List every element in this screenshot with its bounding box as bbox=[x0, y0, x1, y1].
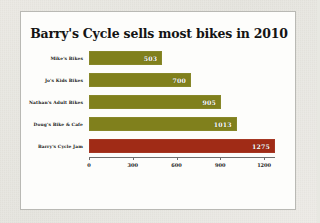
bar-row: Nathan's Adult Bikes 905 bbox=[89, 95, 275, 109]
bar[interactable]: 700 bbox=[89, 73, 191, 87]
bar[interactable]: 1013 bbox=[89, 117, 237, 131]
bar-value-label: 700 bbox=[173, 77, 187, 84]
bar-value-label: 503 bbox=[144, 55, 158, 62]
bar-value-label: 905 bbox=[202, 99, 216, 106]
x-axis-tick-label: 900 bbox=[215, 162, 225, 168]
x-axis-tick-label: 1200 bbox=[257, 162, 271, 168]
bar[interactable]: 503 bbox=[89, 51, 162, 65]
bar-row: Mike's Bikes 503 bbox=[89, 51, 275, 65]
bar-row: Doug's Bike & Cafe 1013 bbox=[89, 117, 275, 131]
category-label: Jo's Kids Bikes bbox=[45, 78, 83, 83]
plot-area: Mike's Bikes 503 Jo's Kids Bikes 700 Nat… bbox=[89, 51, 275, 157]
chart-panel: Barry's Cycle sells most bikes in 2010 M… bbox=[20, 11, 296, 210]
bar-value-label: 1013 bbox=[214, 121, 232, 128]
x-axis-tick bbox=[264, 157, 265, 160]
bar-row: Barry's Cycle Jam 1275 bbox=[89, 139, 275, 153]
x-axis-tick bbox=[177, 157, 178, 160]
x-axis-tick-label: 300 bbox=[128, 162, 138, 168]
x-axis-tick-label: 0 bbox=[87, 162, 90, 168]
x-axis-tick bbox=[89, 157, 90, 160]
bar-row: Jo's Kids Bikes 700 bbox=[89, 73, 275, 87]
x-axis-tick bbox=[133, 157, 134, 160]
bar[interactable]: 905 bbox=[89, 95, 221, 109]
category-label: Doug's Bike & Cafe bbox=[34, 122, 83, 127]
category-label: Mike's Bikes bbox=[50, 56, 83, 61]
bar-highlighted[interactable]: 1275 bbox=[89, 139, 275, 153]
category-label: Nathan's Adult Bikes bbox=[29, 100, 83, 105]
x-axis-line bbox=[89, 157, 275, 158]
x-axis-tick-label: 600 bbox=[171, 162, 181, 168]
category-label: Barry's Cycle Jam bbox=[38, 144, 83, 149]
x-axis-tick bbox=[220, 157, 221, 160]
chart-title: Barry's Cycle sells most bikes in 2010 bbox=[21, 26, 297, 41]
bar-value-label: 1275 bbox=[252, 143, 270, 150]
